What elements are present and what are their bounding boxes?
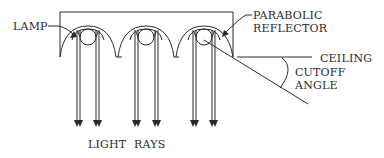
lamp-label: LAMP bbox=[13, 20, 48, 33]
cutoff-label-line1: CUTOFF bbox=[295, 66, 346, 79]
ray bbox=[132, 30, 141, 127]
luminaire-diagram: LAMP PARABOLIC REFLECTOR CEILING CUTOFF … bbox=[0, 0, 384, 158]
reflector-leader bbox=[225, 15, 252, 33]
ray bbox=[152, 30, 161, 127]
lamp-2 bbox=[138, 29, 154, 45]
fixture-housing bbox=[60, 12, 233, 57]
cutoff-label-line2: ANGLE bbox=[294, 79, 338, 92]
ray bbox=[93, 30, 102, 127]
lamp-leader bbox=[48, 26, 74, 35]
ceiling-label: CEILING bbox=[320, 52, 372, 65]
ray bbox=[190, 30, 199, 127]
reflector-label-line2: REFLECTOR bbox=[253, 22, 328, 35]
reflector-label-line1: PARABOLIC bbox=[253, 9, 323, 22]
reflector-2 bbox=[118, 26, 179, 57]
lamp-1 bbox=[80, 29, 96, 45]
lamp-3 bbox=[196, 29, 212, 45]
cutoff-angle-arc bbox=[280, 58, 288, 88]
ray bbox=[74, 30, 83, 127]
cutoff-line bbox=[204, 40, 308, 104]
light-rays-label: LIGHT RAYS bbox=[88, 138, 165, 151]
ray bbox=[209, 30, 218, 127]
